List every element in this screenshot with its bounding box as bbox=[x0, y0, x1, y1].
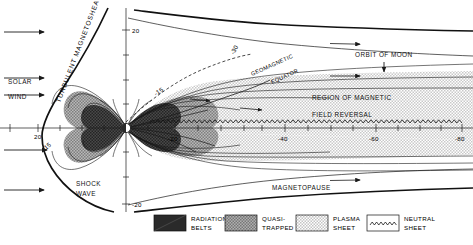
legend-label-quasi-trapped-line1: QUASI- bbox=[262, 215, 285, 222]
solar-wind-label-line2: WIND bbox=[8, 93, 27, 100]
y-tick-20: 20 bbox=[132, 27, 140, 34]
legend-label-neutral-sheet-line2: SHEET bbox=[404, 224, 426, 231]
shock-wave-label-line2: WAVE bbox=[76, 190, 96, 197]
magnetopause-label: MAGNETOPAUSE bbox=[272, 184, 331, 191]
region-reversal-line1: REGION OF MAGNETIC bbox=[312, 94, 391, 101]
solar-wind-label-line1: SOLAR bbox=[8, 78, 32, 85]
legend-label-plasma-sheet-line1: PLASMA bbox=[333, 215, 361, 222]
legend-swatch-quasi-trapped bbox=[225, 215, 257, 231]
legend-label-radiation-belts-line2: BELTS bbox=[191, 224, 212, 231]
x-tick-neg80: -80 bbox=[455, 135, 465, 142]
x-tick-neg40: -40 bbox=[278, 135, 288, 142]
shock-wave-label-line1: SHOCK bbox=[76, 180, 101, 187]
x-tick-20: 20 bbox=[34, 133, 42, 140]
region-reversal-line2: FIELD REVERSAL bbox=[312, 111, 372, 118]
magnetosphere-diagram: SOLAR WIND TURBULENT MAGNETOSHEATH SHOCK… bbox=[0, 0, 473, 245]
legend-label-quasi-trapped-line2: TRAPPED bbox=[262, 224, 294, 231]
legend-label-neutral-sheet-line1: NEUTRAL bbox=[404, 215, 436, 222]
legend-swatch-plasma-sheet bbox=[296, 215, 328, 231]
legend-label-radiation-belts-line1: RADIATION bbox=[191, 215, 227, 222]
legend-label-plasma-sheet-line2: SHEET bbox=[333, 224, 355, 231]
orbit-of-moon-label: ORBIT OF MOON bbox=[355, 51, 413, 58]
x-tick-neg20: -20 bbox=[168, 135, 178, 142]
x-tick-neg60: -60 bbox=[369, 135, 379, 142]
y-tick-neg20: -20 bbox=[132, 201, 142, 208]
